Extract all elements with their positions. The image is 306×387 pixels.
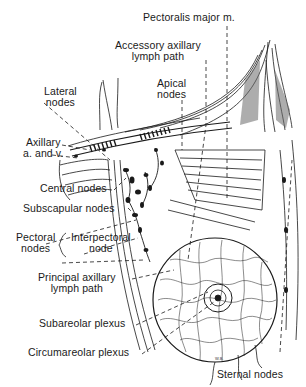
label-principal-axillary-lymph-path: Principal axillary lymph path xyxy=(38,272,116,294)
label-subareolar-plexus: Subareolar plexus xyxy=(39,318,125,329)
label-pectoral-nodes: Pectoral nodes xyxy=(16,232,55,254)
label-lateral-nodes: Lateral nodes xyxy=(44,86,77,108)
arm-bone-1 xyxy=(103,80,112,130)
label-subscapular-nodes: Subscapular nodes xyxy=(23,203,115,214)
label-sternal-nodes: Sternal nodes xyxy=(217,369,283,380)
label-pectoralis-major: Pectoralis major m. xyxy=(143,12,235,23)
anatomy-figure: Pectoralis major m. Accessory axillary l… xyxy=(0,0,306,387)
pectoralis-minor-muscle xyxy=(168,150,265,230)
label-axillary-artery-vein: Axillary a. and v. xyxy=(23,137,63,159)
breast xyxy=(153,238,277,362)
label-circumareolar-plexus: Circumareolar plexus xyxy=(28,347,129,358)
artist-signature: W.B. xyxy=(215,356,223,361)
label-interpectoral-node: Interpectoral node xyxy=(71,232,131,254)
label-accessory-axillary-lymph-path: Accessory axillary lymph path xyxy=(115,40,201,62)
label-apical-nodes: Apical nodes xyxy=(157,78,186,100)
pectoral-brace xyxy=(58,232,68,258)
nipple xyxy=(215,295,221,301)
label-central-nodes: Central nodes xyxy=(40,183,107,194)
